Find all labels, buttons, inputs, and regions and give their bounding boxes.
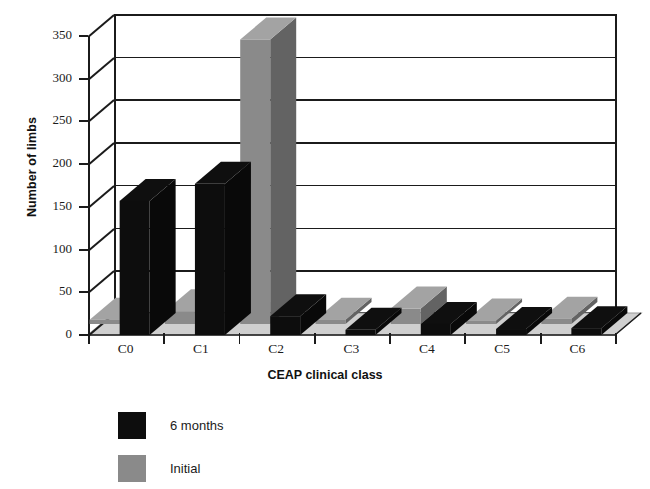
- x-tick-mark-0: [88, 333, 90, 344]
- bar-6-months-C1: [195, 162, 251, 335]
- bars-svg: [0, 0, 650, 400]
- x-tick-label-C0: C0: [96, 341, 156, 357]
- x-axis-title: CEAP clinical class: [0, 368, 650, 382]
- chart-legend: 6 months Initial: [118, 412, 223, 489]
- x-tick-mark-2: [239, 333, 241, 344]
- x-tick-mark-5: [464, 333, 466, 344]
- legend-label-6-months: 6 months: [170, 418, 223, 433]
- x-tick-mark-6: [540, 333, 542, 344]
- x-tick-label-C1: C1: [171, 341, 231, 357]
- legend-swatch-initial: [118, 455, 146, 482]
- chart-figure: Number of limbs 050100150200250300350 C0…: [0, 0, 650, 489]
- x-tick-label-C2: C2: [246, 341, 306, 357]
- x-tick-label-C4: C4: [397, 341, 457, 357]
- legend-label-initial: Initial: [170, 461, 200, 476]
- bar-6-months-C0: [120, 179, 176, 335]
- legend-item-initial: Initial: [118, 455, 223, 482]
- x-tick-mark-4: [389, 333, 391, 344]
- plot-area: 050100150200250300350 C0C1C2C3C4C5C6 CEA…: [0, 0, 650, 400]
- x-tick-mark-7: [615, 333, 617, 344]
- legend-item-6-months: 6 months: [118, 412, 223, 439]
- x-tick-label-C6: C6: [547, 341, 607, 357]
- x-tick-label-C3: C3: [322, 341, 382, 357]
- x-tick-mark-3: [314, 333, 316, 344]
- x-tick-label-C5: C5: [472, 341, 532, 357]
- legend-swatch-6-months: [118, 412, 146, 439]
- x-tick-mark-1: [163, 333, 165, 344]
